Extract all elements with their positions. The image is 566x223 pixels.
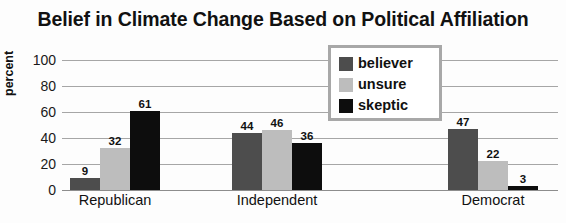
bar-republican-unsure: 32 <box>100 148 130 190</box>
bar-value-label: 36 <box>301 130 314 142</box>
bar-value-label: 44 <box>241 120 254 132</box>
bar-value-label: 32 <box>109 135 122 147</box>
bar-independent-believer: 44 <box>232 133 262 190</box>
bar-value-label: 22 <box>487 148 500 160</box>
chart-legend: believerunsureskeptic <box>328 45 442 121</box>
plot-area: 020406080100 9326144463647223 Republican… <box>62 60 558 190</box>
x-axis-baseline <box>62 190 558 191</box>
legend-swatch-icon <box>339 78 353 92</box>
bar-republican-believer: 9 <box>70 178 100 190</box>
bar-chart-figure: Belief in Climate Change Based on Politi… <box>0 0 566 223</box>
y-axis-tick-label: 20 <box>10 156 56 172</box>
legend-label: skeptic <box>358 98 408 113</box>
bar-democrat-believer: 47 <box>448 129 478 190</box>
y-axis-tick-label: 60 <box>10 104 56 120</box>
gridline <box>62 86 558 87</box>
y-axis-tick-label: 80 <box>10 78 56 94</box>
gridline <box>62 60 558 61</box>
category-label-democrat: Democrat <box>462 192 525 208</box>
bar-democrat-skeptic: 3 <box>508 186 538 190</box>
bar-independent-skeptic: 36 <box>292 143 322 190</box>
category-label-republican: Republican <box>79 192 152 208</box>
chart-title: Belief in Climate Change Based on Politi… <box>0 8 566 31</box>
bar-democrat-unsure: 22 <box>478 161 508 190</box>
y-axis-tick-label: 40 <box>10 130 56 146</box>
legend-swatch-icon <box>339 57 353 71</box>
legend-item-believer: believer <box>339 53 439 74</box>
legend-item-skeptic: skeptic <box>339 95 439 116</box>
bar-value-label: 46 <box>271 117 284 129</box>
bar-value-label: 3 <box>520 173 526 185</box>
legend-label: believer <box>358 56 413 71</box>
bar-value-label: 47 <box>457 116 470 128</box>
legend-item-unsure: unsure <box>339 74 439 95</box>
legend-swatch-icon <box>339 99 353 113</box>
bar-value-label: 9 <box>82 165 88 177</box>
bar-independent-unsure: 46 <box>262 130 292 190</box>
legend-label: unsure <box>358 77 406 92</box>
y-axis-tick-label: 0 <box>10 182 56 198</box>
y-axis-tick-label: 100 <box>10 52 56 68</box>
bar-republican-skeptic: 61 <box>130 111 160 190</box>
bar-value-label: 61 <box>139 98 152 110</box>
category-label-independent: Independent <box>237 192 318 208</box>
